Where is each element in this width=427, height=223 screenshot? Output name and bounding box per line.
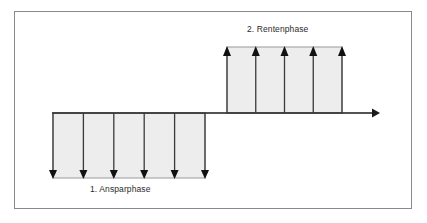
ansparphase-block (53, 113, 205, 178)
ansparphase-label: 1. Ansparphase (90, 184, 150, 194)
diagram-screenshot: 2. Rentenphase 1. Ansparphase (0, 0, 427, 223)
cashflow-diagram (0, 0, 427, 223)
rentenphase-label: 2. Rentenphase (247, 24, 308, 34)
